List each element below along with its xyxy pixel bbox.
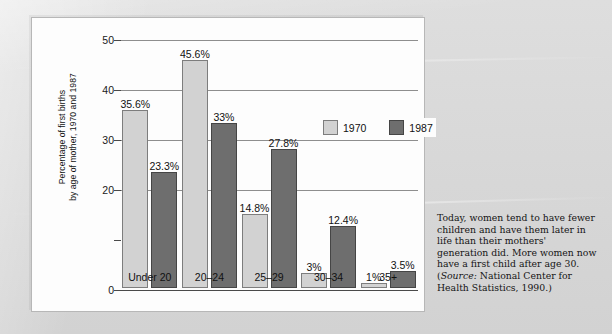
y-axis-tick-label: 0	[84, 285, 114, 295]
grid-line	[120, 90, 418, 91]
bar-value-label: 45.6%	[180, 48, 210, 60]
legend-item-1970: 1970	[323, 120, 366, 135]
x-axis-label-35+: 35+	[379, 271, 397, 283]
y-axis-tick	[114, 40, 121, 41]
y-axis-tick	[114, 190, 121, 191]
bar-value-label: 23.3%	[149, 160, 179, 172]
grid-line	[120, 40, 418, 41]
y-axis-tick	[114, 90, 121, 91]
x-axis-label-30–34: 30–34	[314, 271, 343, 283]
x-axis-label-Under-20: Under 20	[128, 271, 171, 283]
y-axis-tick	[114, 240, 121, 241]
y-axis-tick	[114, 140, 121, 141]
bar-1987-25–29	[271, 149, 297, 288]
figure-caption: Today, women tend to have fewer children…	[437, 212, 597, 293]
bar-value-label: 33%	[213, 111, 234, 123]
legend-item-1987: 1987	[389, 120, 432, 135]
bar-1970-Under-20	[122, 110, 148, 288]
chart-legend: 1970 1987	[320, 118, 436, 137]
y-axis-title-line-2: by age of mother, 1970 and 1987	[68, 27, 79, 247]
bar-value-label: 3.5%	[391, 259, 415, 271]
bar-1970-20–24	[182, 60, 208, 288]
chart-panel: 020304050 Percentage of first births by …	[31, 17, 425, 312]
y-axis-title: Percentage of first births by age of mot…	[57, 27, 79, 247]
y-axis-tick-labels: 020304050	[76, 18, 114, 313]
bar-value-label: 27.8%	[269, 137, 299, 149]
y-axis-title-line-1: Percentage of first births	[57, 27, 68, 247]
legend-label-1970: 1970	[343, 122, 366, 134]
bar-value-label: 14.8%	[240, 202, 270, 214]
y-axis-tick-label: 30	[84, 135, 114, 145]
y-axis-tick-label: 20	[84, 185, 114, 195]
bar-1970-35+	[361, 283, 387, 288]
legend-swatch-icon-1987	[389, 120, 404, 135]
x-axis-label-25–29: 25–29	[254, 271, 283, 283]
y-axis-tick-label: 40	[84, 85, 114, 95]
bar-1987-20–24	[211, 123, 237, 288]
caption-source-label: Source:	[441, 270, 477, 281]
bar-value-label: 35.6%	[120, 98, 150, 110]
x-axis-label-20–24: 20–24	[195, 271, 224, 283]
x-axis-line	[120, 290, 418, 291]
y-axis-tick-label: 50	[84, 35, 114, 45]
legend-swatch-icon-1970	[323, 120, 338, 135]
legend-label-1987: 1987	[409, 122, 432, 134]
bar-value-label: 12.4%	[328, 214, 358, 226]
